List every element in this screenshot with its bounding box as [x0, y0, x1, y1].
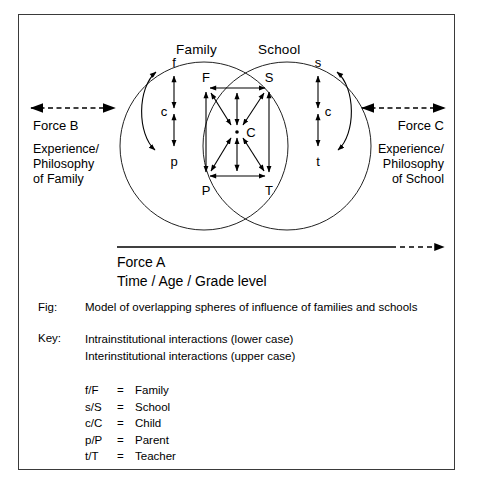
center-node-dot	[235, 130, 239, 134]
force-c-line-3: of School	[339, 172, 444, 187]
force-c-line-1: Experience/	[339, 142, 444, 157]
node-label-c-school: c	[325, 104, 332, 119]
node-label-P: P	[202, 183, 211, 198]
force-b-line-2: Philosophy	[33, 157, 94, 172]
inter-institutional-labels: F S C P T	[202, 70, 274, 198]
node-label-c-family: c	[161, 104, 168, 119]
diagram-frame: f c p s c t	[18, 14, 455, 470]
force-b-title: Force B	[33, 118, 79, 133]
node-label-s: s	[315, 55, 322, 70]
legend-row: s/S = School	[85, 399, 176, 416]
legend-symbol: s/S	[85, 399, 117, 416]
node-label-T: T	[265, 183, 273, 198]
legend-meaning: Child	[135, 415, 161, 432]
legend-symbol: p/P	[85, 432, 117, 449]
diagram-page: f c p s c t	[0, 0, 477, 493]
force-c-line-2: Philosophy	[339, 157, 444, 172]
edge-P-C	[211, 138, 231, 171]
node-label-F: F	[202, 70, 210, 85]
legend-symbol: c/C	[85, 415, 117, 432]
intra-school-arc	[337, 72, 351, 150]
intra-school-labels: s c t	[315, 55, 332, 169]
legend-equals: =	[117, 448, 135, 465]
intra-family-group	[142, 72, 174, 150]
key-line-1: Intrainstitutional interactions (lower c…	[85, 332, 293, 347]
force-b-line-3: of Family	[33, 172, 84, 187]
legend-meaning: Teacher	[135, 448, 176, 465]
edge-T-C	[243, 138, 264, 171]
legend-meaning: School	[135, 399, 170, 416]
legend-row: p/P = Parent	[85, 432, 176, 449]
legend-row: c/C = Child	[85, 415, 176, 432]
node-label-C: C	[246, 125, 255, 140]
force-b-line-1: Experience/	[33, 142, 99, 157]
legend-symbol: t/T	[85, 448, 117, 465]
node-label-S: S	[265, 70, 274, 85]
key-line-2: Interinstitutional interactions (upper c…	[85, 349, 295, 364]
legend-list: f/F = Family s/S = School c/C = Child p/…	[85, 382, 176, 465]
sphere-circles	[120, 62, 371, 230]
legend-equals: =	[117, 432, 135, 449]
family-circle	[120, 62, 288, 230]
force-a-title: Force A	[117, 254, 165, 270]
edge-S-C	[243, 93, 264, 125]
legend-symbol: f/F	[85, 382, 117, 399]
intra-family-arc	[142, 72, 156, 150]
legend-meaning: Parent	[135, 432, 169, 449]
legend-meaning: Family	[135, 382, 169, 399]
family-sphere-label: Family	[176, 42, 217, 57]
legend-equals: =	[117, 399, 135, 416]
node-label-p: p	[170, 154, 177, 169]
legend-equals: =	[117, 415, 135, 432]
fig-label: Fig:	[38, 301, 57, 313]
legend-equals: =	[117, 382, 135, 399]
fig-caption-text: Model of overlapping spheres of influenc…	[85, 301, 417, 313]
node-label-f: f	[172, 55, 176, 70]
legend-row: t/T = Teacher	[85, 448, 176, 465]
key-label: Key:	[38, 332, 61, 344]
school-sphere-label: School	[258, 42, 300, 57]
intra-school-group	[318, 72, 351, 150]
force-a-subtitle: Time / Age / Grade level	[117, 273, 267, 289]
legend-row: f/F = Family	[85, 382, 176, 399]
force-c-title: Force C	[349, 118, 444, 133]
node-label-t: t	[316, 154, 320, 169]
edge-F-C	[211, 93, 231, 125]
